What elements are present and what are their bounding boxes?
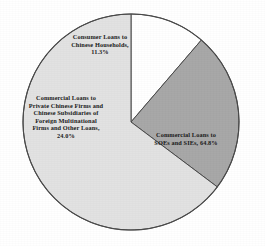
label-line: Firms and Other Loans, (10, 124, 122, 132)
pie-chart-figure: Consumer Loans to Chinese Households, 11… (0, 0, 265, 246)
label-line: Commercial Loans to (139, 131, 233, 139)
label-line: Consumer Loans to (52, 33, 148, 41)
label-value: 11.3% (52, 48, 148, 56)
slice-label-soe-sie-loans: Commercial Loans to SOEs and SIEs, 64.8% (139, 131, 233, 146)
label-value: 24.0% (10, 132, 122, 140)
label-line: Chinese Subsidiaries of (10, 109, 122, 117)
label-value: SOEs and SIEs, 64.8% (139, 139, 233, 147)
slice-label-private-firms-loans: Commercial Loans to Private Chinese Firm… (10, 94, 122, 140)
label-line: Commercial Loans to (10, 94, 122, 102)
label-line: Chinese Households, (52, 41, 148, 49)
slice-label-consumer-loans: Consumer Loans to Chinese Households, 11… (52, 33, 148, 56)
label-line: Private Chinese Firms and (10, 102, 122, 110)
label-line: Foreign Multinational (10, 117, 122, 125)
